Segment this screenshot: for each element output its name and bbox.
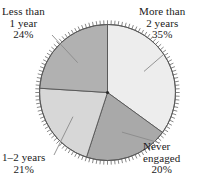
pie-tick bbox=[174, 107, 178, 108]
pie-tick bbox=[45, 56, 49, 58]
pie-tick bbox=[163, 132, 166, 134]
pie-tick bbox=[135, 155, 137, 159]
pie-tick bbox=[158, 44, 161, 47]
pie-tick bbox=[122, 22, 123, 26]
pie-tick bbox=[78, 27, 80, 31]
pie-tick bbox=[49, 132, 52, 134]
slice-label-line-1: Less than bbox=[2, 6, 45, 18]
pie-tick bbox=[54, 44, 57, 47]
pie-tick bbox=[47, 53, 51, 55]
pie-tick bbox=[168, 123, 172, 125]
slice-label-1-2-years: 1–2 years 21% bbox=[2, 152, 45, 175]
pie-tick bbox=[118, 21, 119, 25]
pie-tick bbox=[135, 27, 137, 31]
pie-tick bbox=[42, 63, 46, 65]
slice-label-never-engaged: Never engaged 20% bbox=[143, 141, 180, 176]
pie-tick bbox=[65, 34, 67, 37]
pie-tick bbox=[42, 120, 46, 122]
pie-tick bbox=[38, 74, 42, 75]
pie-tick bbox=[171, 117, 175, 119]
pie-tick bbox=[175, 103, 179, 104]
pie-tick bbox=[37, 77, 41, 78]
pie-tick bbox=[75, 153, 77, 157]
pie-tick bbox=[166, 127, 170, 129]
slice-value-label: 24% bbox=[2, 29, 45, 41]
pie-tick bbox=[54, 138, 57, 141]
pie-tick bbox=[165, 53, 169, 55]
pie-tick bbox=[168, 60, 172, 62]
pie-tick bbox=[65, 148, 67, 151]
pie-tick bbox=[39, 70, 43, 71]
pie-tick bbox=[89, 158, 90, 162]
pie-tick bbox=[62, 36, 65, 39]
pie-tick bbox=[82, 25, 84, 29]
pie-tick bbox=[163, 50, 166, 52]
pie-tick bbox=[40, 117, 44, 119]
pie-tick bbox=[118, 160, 119, 164]
pie-tick bbox=[51, 47, 54, 50]
slice-value-label: 35% bbox=[139, 29, 185, 41]
pie-chart-figure: Less than 1 year 24% More than 2 years 3… bbox=[0, 0, 214, 191]
pie-tick bbox=[171, 67, 175, 69]
slice-label-more-than-2-years: More than 2 years 35% bbox=[139, 6, 185, 41]
pie-tick bbox=[172, 114, 176, 115]
pie-tick bbox=[173, 74, 177, 75]
pie-tick bbox=[165, 130, 169, 132]
pie-tick bbox=[125, 158, 126, 162]
pie-tick bbox=[68, 32, 70, 36]
pie-tick bbox=[172, 70, 176, 71]
pie-tick bbox=[122, 159, 123, 163]
slice-label-line-1: More than bbox=[139, 6, 185, 18]
pie-tick bbox=[125, 23, 126, 27]
pie-tick bbox=[173, 110, 177, 111]
pie-tick bbox=[43, 60, 47, 62]
slice-value-label: 20% bbox=[143, 164, 180, 176]
pie-tick bbox=[166, 56, 170, 58]
pie-tick bbox=[49, 50, 52, 52]
pie-tick bbox=[36, 81, 40, 82]
pie-tick bbox=[43, 123, 47, 125]
pie-tick bbox=[170, 63, 174, 65]
pie-tick bbox=[62, 145, 65, 148]
pie-tick bbox=[47, 130, 51, 132]
pie-tick bbox=[40, 67, 44, 69]
pie-tick bbox=[174, 77, 178, 78]
pie-tick bbox=[71, 151, 73, 155]
pie-tick bbox=[89, 23, 90, 27]
pie-tick bbox=[138, 153, 140, 157]
pie-tick bbox=[92, 22, 93, 26]
pie-tick bbox=[132, 156, 134, 160]
pie-tick bbox=[82, 156, 84, 160]
pie-tick bbox=[129, 157, 130, 161]
pie-tick bbox=[59, 39, 62, 42]
pie-tick bbox=[96, 160, 97, 164]
pie-tick bbox=[160, 135, 163, 138]
pie-tick bbox=[39, 114, 43, 115]
pie-tick bbox=[132, 25, 134, 29]
pie-tick bbox=[45, 127, 49, 129]
pie-tick bbox=[175, 81, 179, 82]
pie-tick bbox=[51, 135, 54, 138]
pie-tick bbox=[156, 41, 159, 44]
slice-label-less-than-1-year: Less than 1 year 24% bbox=[2, 6, 45, 41]
pie-tick bbox=[78, 155, 80, 159]
pie-tick bbox=[85, 157, 86, 161]
pie-tick bbox=[36, 103, 40, 104]
pie-center-dot bbox=[106, 91, 109, 94]
slice-value-label: 21% bbox=[2, 164, 45, 176]
slice-label-line-1: Never bbox=[143, 141, 180, 153]
pie-tick bbox=[38, 110, 42, 111]
pie-tick bbox=[56, 141, 59, 144]
pie-tick bbox=[160, 47, 163, 50]
pie-tick bbox=[96, 21, 97, 25]
pie-tick bbox=[170, 120, 174, 122]
pie-tick bbox=[75, 28, 77, 32]
pie-tick bbox=[71, 30, 73, 34]
pie-tick bbox=[92, 159, 93, 163]
pie-tick bbox=[129, 24, 130, 28]
pie-tick bbox=[37, 107, 41, 108]
slice-label-line-1: 1–2 years bbox=[2, 152, 45, 164]
pie-tick bbox=[85, 24, 86, 28]
pie-tick bbox=[68, 150, 70, 154]
